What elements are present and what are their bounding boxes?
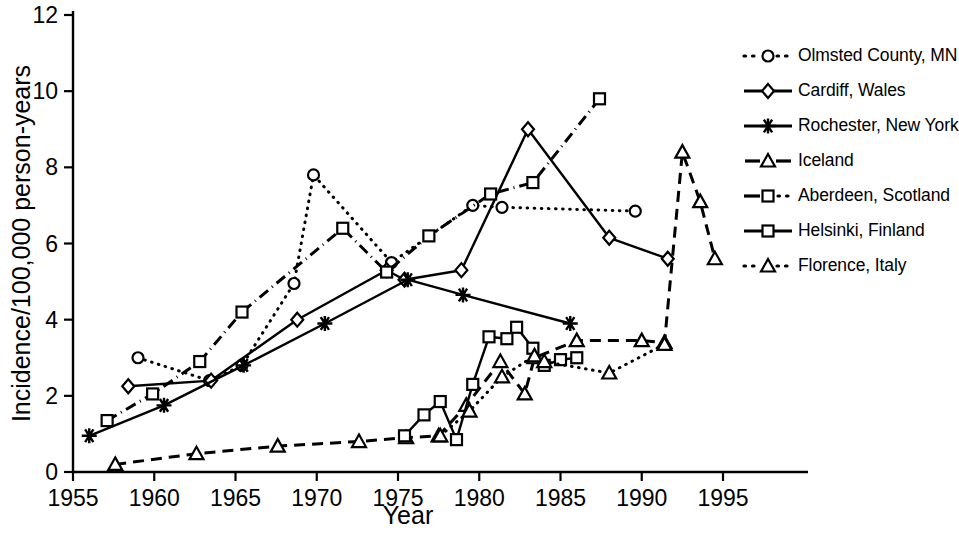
chart-legend: Olmsted County, MNCardiff, WalesRocheste… bbox=[742, 38, 948, 283]
data-point-marker bbox=[289, 278, 300, 289]
data-point-marker bbox=[147, 388, 158, 399]
data-point-marker bbox=[399, 430, 410, 441]
data-point-marker bbox=[317, 316, 332, 331]
data-point-marker bbox=[594, 93, 605, 104]
data-point-marker bbox=[102, 415, 113, 426]
y-axis-tick-label: 2 bbox=[45, 383, 58, 409]
legend-item: Aberdeen, Scotland bbox=[742, 178, 948, 213]
data-point-marker bbox=[237, 307, 248, 318]
legend-item: Olmsted County, MN bbox=[742, 38, 948, 73]
data-point-marker bbox=[456, 287, 471, 302]
legend-key-open-circle-icon bbox=[742, 45, 794, 67]
legend-item: Florence, Italy bbox=[742, 248, 948, 283]
data-point-marker bbox=[419, 409, 430, 420]
y-axis-tick-label: 0 bbox=[45, 459, 58, 485]
y-axis-tick-label: 4 bbox=[45, 307, 58, 333]
data-point-marker bbox=[484, 331, 495, 342]
legend-item-label: Helsinki, Finland bbox=[798, 220, 925, 241]
data-point-marker bbox=[467, 379, 478, 390]
data-point-marker bbox=[630, 206, 641, 217]
y-axis-tick-label: 12 bbox=[32, 2, 58, 28]
legend-item-label: Aberdeen, Scotland bbox=[798, 185, 950, 206]
data-point-marker bbox=[133, 352, 144, 363]
x-axis-tick-label: 1990 bbox=[616, 485, 667, 511]
data-point-marker bbox=[451, 434, 462, 445]
x-axis-tick-label: 1985 bbox=[535, 485, 586, 511]
series-line bbox=[128, 129, 667, 386]
axis-titles-layer: YearIncidence/100,000 person-years bbox=[7, 65, 433, 529]
x-axis-tick-label: 1970 bbox=[291, 485, 342, 511]
legend-item-label: Rochester, New York bbox=[798, 115, 959, 136]
legend-key-open-triangle-icon bbox=[742, 150, 794, 172]
legend-key-open-square-icon bbox=[742, 185, 794, 207]
data-point-marker bbox=[511, 322, 522, 333]
legend-item-label: Cardiff, Wales bbox=[798, 80, 906, 101]
legend-key-star-icon bbox=[742, 115, 794, 137]
legend-item: Cardiff, Wales bbox=[742, 73, 948, 108]
series-line bbox=[405, 327, 577, 439]
y-axis-tick-label: 8 bbox=[45, 154, 58, 180]
legend-item-label: Florence, Italy bbox=[798, 255, 906, 276]
legend-item: Rochester, New York bbox=[742, 108, 948, 143]
legend-key-open-square-icon bbox=[742, 220, 794, 242]
legend-item-label: Olmsted County, MN bbox=[798, 45, 957, 66]
legend-key-open-diamond-icon bbox=[742, 80, 794, 102]
data-point-marker bbox=[194, 356, 205, 367]
data-point-marker bbox=[308, 169, 319, 180]
legend-item: Helsinki, Finland bbox=[742, 213, 948, 248]
y-axis-title: Incidence/100,000 person-years bbox=[7, 65, 35, 422]
chart-series bbox=[102, 93, 605, 426]
x-axis-tick-label: 1980 bbox=[454, 485, 505, 511]
data-point-marker bbox=[423, 230, 434, 241]
data-point-marker bbox=[493, 355, 507, 368]
axis-layer: 0246810121955196019651970197519801985199… bbox=[32, 2, 808, 511]
chart-series bbox=[108, 145, 722, 470]
data-point-marker bbox=[291, 313, 303, 327]
data-point-marker bbox=[763, 225, 774, 236]
data-point-marker bbox=[563, 316, 578, 331]
data-point-marker bbox=[455, 263, 467, 277]
series-line bbox=[115, 152, 715, 464]
y-axis-tick-label: 10 bbox=[32, 78, 58, 104]
data-point-marker bbox=[602, 366, 616, 379]
data-point-marker bbox=[485, 188, 496, 199]
data-point-marker bbox=[761, 118, 776, 133]
y-axis-tick-label: 6 bbox=[45, 231, 58, 257]
legend-item: Iceland bbox=[742, 143, 948, 178]
data-point-marker bbox=[381, 267, 392, 278]
x-axis-tick-label: 1995 bbox=[697, 485, 748, 511]
data-point-marker bbox=[763, 50, 774, 61]
data-point-marker bbox=[82, 428, 97, 443]
chart-series bbox=[399, 322, 582, 445]
x-axis-tick-label: 1960 bbox=[129, 485, 180, 511]
data-point-marker bbox=[693, 195, 707, 208]
data-point-marker bbox=[501, 333, 512, 344]
series-line bbox=[107, 99, 599, 421]
data-point-marker bbox=[435, 396, 446, 407]
data-point-marker bbox=[708, 252, 722, 265]
x-axis-title: Year bbox=[383, 501, 434, 529]
chart-series bbox=[122, 122, 674, 393]
data-point-marker bbox=[337, 223, 348, 234]
data-point-marker bbox=[761, 259, 775, 272]
data-point-marker bbox=[527, 177, 538, 188]
data-point-marker bbox=[675, 145, 689, 158]
data-point-marker bbox=[763, 190, 774, 201]
data-point-marker bbox=[497, 202, 508, 213]
data-point-marker bbox=[571, 352, 582, 363]
x-axis-tick-label: 1955 bbox=[47, 485, 98, 511]
data-point-marker bbox=[762, 84, 774, 98]
legend-key-open-triangle-icon bbox=[742, 255, 794, 277]
legend-item-label: Iceland bbox=[798, 150, 854, 171]
data-point-marker bbox=[761, 154, 775, 167]
data-point-marker bbox=[122, 379, 134, 393]
x-axis-tick-label: 1965 bbox=[210, 485, 261, 511]
series-layer bbox=[82, 93, 722, 470]
